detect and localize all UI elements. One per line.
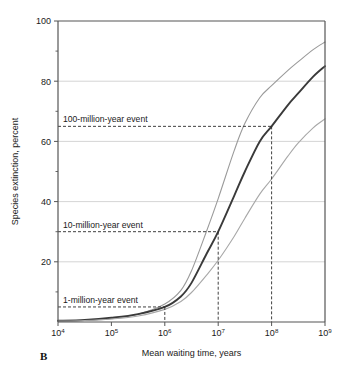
annot-10-million-label: 10-million-year event — [63, 220, 143, 230]
y-tick-label-40: 40 — [41, 197, 51, 207]
y-tick-label-100: 100 — [36, 16, 51, 26]
y-tick-label-80: 80 — [41, 77, 51, 87]
panel-label-b: B — [40, 350, 48, 362]
annot-100-million-label: 100-million-year event — [63, 114, 148, 124]
y-tick-label-60: 60 — [41, 137, 51, 147]
y-tick-label-20: 20 — [41, 257, 51, 267]
x-axis-title: Mean waiting time, years — [142, 348, 242, 358]
chart-background — [0, 0, 347, 381]
figure-panel-b: 1-million-year event10-million-year even… — [0, 0, 347, 381]
y-axis-title: Species extinction, percent — [10, 117, 20, 225]
annot-1-million-label: 1-million-year event — [63, 295, 139, 305]
extinction-waiting-time-chart: 1-million-year event10-million-year even… — [0, 0, 347, 381]
